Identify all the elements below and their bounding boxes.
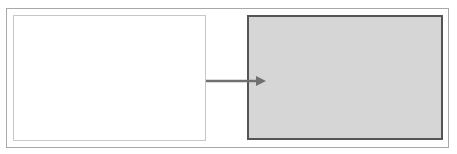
target-box-filled xyxy=(247,15,443,140)
right-arrow-icon xyxy=(206,74,268,88)
source-box-empty xyxy=(13,15,206,141)
